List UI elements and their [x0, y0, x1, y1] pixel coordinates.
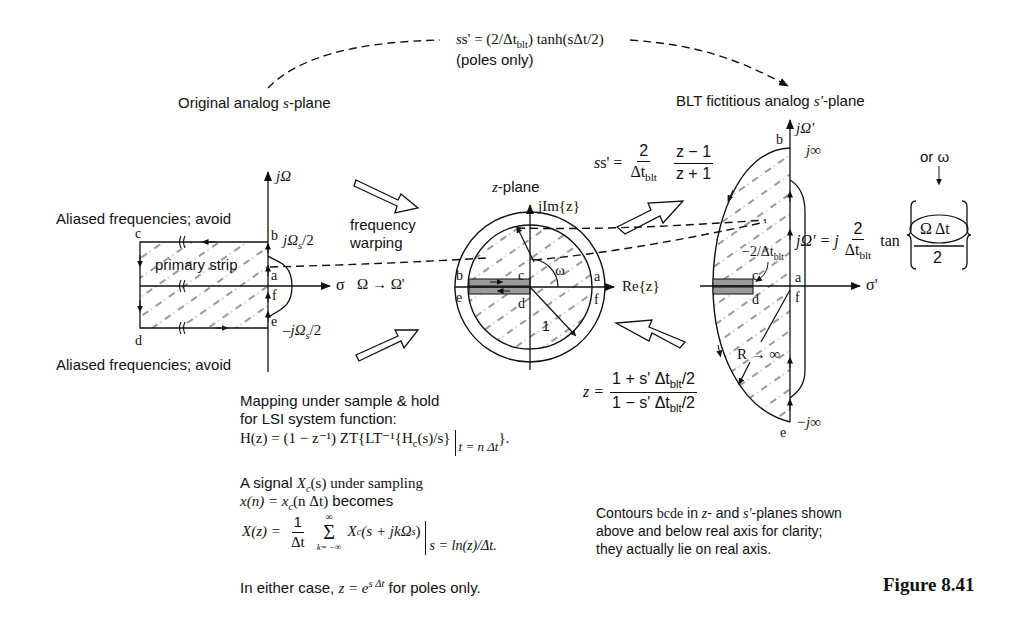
- point-a: a: [271, 268, 277, 284]
- either-case-note: In either case, z = es Δt for poles only…: [240, 578, 481, 597]
- aliased-bottom-label: Aliased frequencies; avoid: [56, 356, 231, 373]
- omega-mapping: Ω → Ω': [357, 276, 405, 293]
- s-prime-plane-title: BLT fictitious analog s'-plane: [676, 92, 865, 110]
- z-unit-radius: 1: [542, 318, 550, 334]
- s-prime-imag-axis-label: jΩ': [796, 120, 814, 137]
- top-infinity-label: j∞: [806, 142, 821, 159]
- blt-inverse-formula: z = 1 + s' Δtblt/21 − s' Δtblt/2: [583, 370, 700, 415]
- sp-point-a: a: [795, 270, 801, 286]
- s-prime-real-axis-label: σ': [866, 276, 878, 294]
- z-point-c: c: [518, 268, 524, 284]
- warping-label-line1: frequency: [350, 216, 416, 233]
- contour-note-line2: above and below real axis for clarity;: [596, 523, 822, 539]
- aliased-top-label: Aliased frequencies; avoid: [56, 210, 231, 227]
- sp-point-b: b: [776, 132, 783, 148]
- contour-note-line3: they actually lie on real axis.: [596, 541, 771, 557]
- z-angle-omega: ω: [555, 262, 565, 279]
- point-c: c: [135, 226, 141, 242]
- warping-label-line2: warping: [350, 234, 403, 251]
- bottom-infinity-label: −j∞: [796, 414, 821, 431]
- frequency-warping-formula: jΩ' = j 2Δtblt tan: [796, 220, 900, 262]
- warp-arg-denominator: 2: [933, 249, 942, 267]
- z-point-f: f: [594, 292, 599, 308]
- s-plane-real-axis-label: σ: [336, 276, 345, 294]
- or-omega-label: or ω: [920, 148, 949, 165]
- lower-strip-limit: –jΩs/2: [283, 322, 321, 342]
- s-prime-plane-diagram: [700, 120, 971, 422]
- point-e: e: [271, 314, 277, 330]
- upper-strip-limit: jΩs/2: [283, 232, 314, 252]
- radius-infinity-label: R → ∞: [737, 346, 780, 363]
- sample-hold-formula: H(z) = (1 − z⁻¹) ZT{LT⁻¹{Hc(s)/s}t = n Δ…: [240, 430, 509, 456]
- top-mapping-note: (poles only): [456, 51, 534, 68]
- contour-note-line1: Contours bcde in z- and s'-planes shown: [596, 505, 842, 522]
- formula-subscript: blt: [517, 39, 528, 50]
- formula-part: s' = (2/Δt: [462, 31, 517, 47]
- z-plane-title: z-plane: [492, 178, 540, 196]
- z-point-b: b: [456, 268, 463, 284]
- point-f: f: [272, 288, 277, 304]
- sp-point-f: f: [795, 290, 800, 306]
- top-mapping-formula: ss' = (2/Δtblt) tanh(sΔt/2): [456, 31, 604, 51]
- s-plane-imag-axis-label: jΩ: [276, 168, 291, 185]
- primary-strip-label: primary strip: [155, 256, 238, 273]
- figure-number: Figure 8.41: [883, 574, 974, 596]
- blt-forward-formula: ss' = 2Δtblt z − 1z + 1: [594, 142, 716, 184]
- z-point-a: a: [594, 269, 600, 285]
- formula-part: ) tanh(sΔt/2): [528, 31, 604, 47]
- sp-point-d: d: [752, 292, 759, 308]
- sample-hold-line1: Mapping under sample & hold: [240, 392, 439, 409]
- point-d: d: [135, 333, 142, 349]
- z-point-d: d: [518, 296, 525, 312]
- sampling-line2: x(n) = xc(n Δt) becomes: [240, 492, 393, 513]
- sp-point-c: c: [752, 268, 758, 284]
- pole-location-label: −2/Δtblt: [742, 244, 784, 262]
- z-plane-imag-axis-label: jIm{z}: [538, 198, 580, 215]
- figure-graphics: [0, 0, 1024, 622]
- sp-point-e: e: [780, 425, 786, 441]
- point-b: b: [271, 228, 278, 244]
- z-point-e: e: [456, 290, 462, 306]
- sampling-formula: X(z) = 1Δt ∞Σk= −∞ Xc (s + jkΩs) s = ln(…: [242, 512, 497, 552]
- sample-hold-line2: for LSI system function:: [240, 410, 397, 427]
- z-plane-real-axis-label: Re{z}: [622, 278, 660, 295]
- warp-arg-numerator: Ω Δt: [920, 220, 950, 238]
- s-plane-title: Original analog s-plane: [178, 94, 331, 112]
